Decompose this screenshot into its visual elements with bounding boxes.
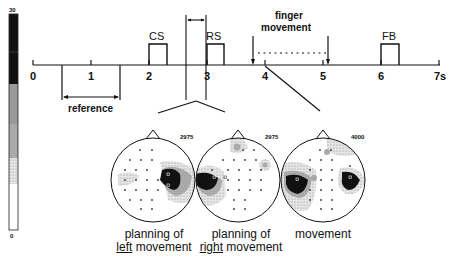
map-1-caption: planning of left movement (111, 228, 197, 254)
tick-4: 4 (262, 70, 268, 82)
head-map-right-planning (196, 130, 280, 222)
map-2-caption-line2: right movement (196, 241, 286, 254)
reference-label: reference (68, 103, 113, 114)
rs-label: RS (206, 30, 221, 42)
map-2-value: 2975 (265, 134, 278, 140)
tick-0: 0 (30, 70, 36, 82)
map-1-caption-line2: left movement (111, 241, 197, 254)
map-3-caption-line1: movement (290, 228, 356, 241)
colorbar-min-label: 0 (10, 233, 13, 239)
finger-movement-label-line1: finger (275, 10, 303, 21)
tick-6: 6 (378, 70, 384, 82)
map-2-caption: planning of right movement (196, 228, 286, 254)
timeline-axis (33, 60, 440, 65)
cs-pulse (149, 44, 167, 65)
rs-pulse (207, 44, 224, 65)
map-1-caption-emphasis: left (116, 240, 132, 254)
tick-5: 5 (320, 70, 326, 82)
map-3-value: 4000 (351, 134, 364, 140)
cs-label: CS (149, 30, 164, 42)
fb-pulse (381, 44, 399, 65)
map-1-value: 2975 (180, 134, 193, 140)
colorbar-max-label: 30 (9, 7, 16, 13)
map-1-caption-rest: movement (132, 240, 191, 254)
map-2-caption-emphasis: right (200, 240, 223, 254)
tick-7s: 7s (434, 70, 446, 82)
tick-3: 3 (204, 70, 210, 82)
tick-2: 2 (146, 70, 152, 82)
head-map-left-planning (111, 130, 196, 222)
map-2-caption-rest: movement (223, 240, 282, 254)
finger-movement-label-line2: movement (261, 22, 311, 33)
fb-label: FB (382, 30, 396, 42)
map-3-caption: movement (290, 228, 356, 241)
colorbar (9, 14, 18, 230)
head-map-movement (281, 130, 366, 222)
tick-1: 1 (88, 70, 94, 82)
